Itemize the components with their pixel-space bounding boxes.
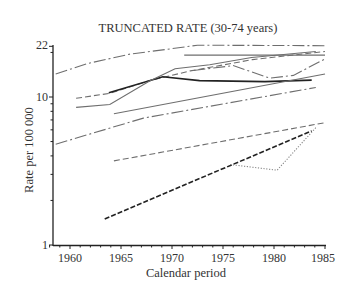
line-series-4	[109, 77, 312, 93]
x-axis-label: Calendar period	[146, 266, 227, 280]
chart: TRUNCATED RATE (30-74 years) 22 10 1 196…	[0, 0, 346, 294]
x-tick-1965: 1965	[109, 251, 133, 265]
line-series-9	[114, 123, 325, 161]
x-tick-1975: 1975	[211, 251, 235, 265]
y-tick-22: 22	[36, 38, 48, 52]
x-tick-1960: 1960	[58, 251, 82, 265]
x-tick-1985: 1985	[311, 251, 335, 265]
line-series-6	[193, 59, 325, 78]
x-tick-1980: 1980	[262, 251, 286, 265]
line-series-1	[56, 45, 325, 74]
plot-lines	[56, 45, 325, 219]
y-axis: 22 10 1	[36, 38, 53, 252]
line-series-11	[230, 128, 316, 171]
y-tick-1: 1	[42, 238, 48, 252]
chart-title: TRUNCATED RATE (30-74 years)	[99, 21, 278, 35]
line-series-7	[114, 74, 325, 114]
x-axis: 1960 1965 1970 1975 1980 1985	[50, 245, 335, 265]
y-axis-label: Rate per 100 000	[22, 107, 36, 193]
x-tick-1970: 1970	[160, 251, 184, 265]
y-tick-10: 10	[36, 90, 48, 104]
